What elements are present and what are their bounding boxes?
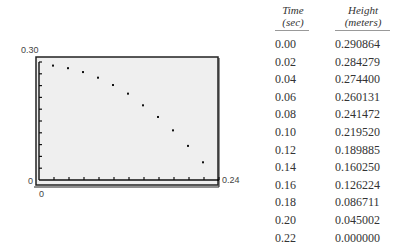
time-cell: 0.08 [275, 107, 296, 122]
table-row: 0.060.260131 [275, 90, 405, 109]
data-point [52, 65, 54, 67]
data-point [217, 179, 219, 181]
height-cell: 0.260131 [335, 90, 380, 105]
data-point [82, 71, 84, 73]
table-row: 0.100.219520 [275, 125, 405, 144]
time-cell: 0.04 [275, 72, 296, 87]
height-header: Height (meters) [333, 4, 393, 28]
data-point [157, 116, 159, 118]
y-max-label: 0.30 [21, 45, 39, 55]
table-row: 0.200.045002 [275, 213, 405, 232]
table-row: 0.000.290864 [275, 37, 405, 56]
height-cell: 0.241472 [335, 107, 380, 122]
height-cell: 0.000000 [335, 231, 380, 242]
data-point [127, 93, 129, 95]
time-header-rule [275, 30, 309, 31]
x-min-label: 0 [39, 189, 44, 199]
height-cell: 0.284279 [335, 55, 380, 70]
time-cell: 0.12 [275, 143, 296, 158]
data-point [67, 67, 69, 69]
time-cell: 0.02 [275, 55, 296, 70]
time-cell: 0.10 [275, 125, 296, 140]
time-cell: 0.14 [275, 160, 296, 175]
height-cell: 0.219520 [335, 125, 380, 140]
height-cell: 0.290864 [335, 37, 380, 52]
time-cell: 0.20 [275, 213, 296, 228]
plot-frame [36, 57, 218, 185]
table-row: 0.080.241472 [275, 107, 405, 126]
height-cell: 0.189885 [335, 143, 380, 158]
table-row: 0.180.086711 [275, 195, 405, 214]
time-cell: 0.00 [275, 37, 296, 52]
time-cell: 0.16 [275, 178, 296, 193]
x-max-label: 0.24 [222, 175, 240, 185]
height-cell: 0.045002 [335, 213, 380, 228]
height-cell: 0.274400 [335, 72, 380, 87]
data-point [202, 161, 204, 163]
table-row: 0.120.189885 [275, 143, 405, 162]
table-row: 0.020.284279 [275, 55, 405, 74]
table-row: 0.040.274400 [275, 72, 405, 91]
data-point [142, 104, 144, 106]
height-cell: 0.160250 [335, 160, 380, 175]
time-cell: 0.22 [275, 231, 296, 242]
table-row: 0.160.126224 [275, 178, 405, 197]
data-point [97, 77, 99, 79]
data-point [172, 129, 174, 131]
height-cell: 0.086711 [335, 195, 380, 210]
data-point [187, 145, 189, 147]
data-point [112, 84, 114, 86]
table-row: 0.220.000000 [275, 231, 405, 242]
height-header-rule [335, 30, 390, 31]
time-cell: 0.18 [275, 195, 296, 210]
y-min-label: 0 [28, 176, 33, 186]
height-cell: 0.126224 [335, 178, 380, 193]
scatter-plot [0, 0, 260, 242]
time-header: Time (sec) [273, 4, 313, 28]
table-row: 0.140.160250 [275, 160, 405, 179]
time-cell: 0.06 [275, 90, 296, 105]
